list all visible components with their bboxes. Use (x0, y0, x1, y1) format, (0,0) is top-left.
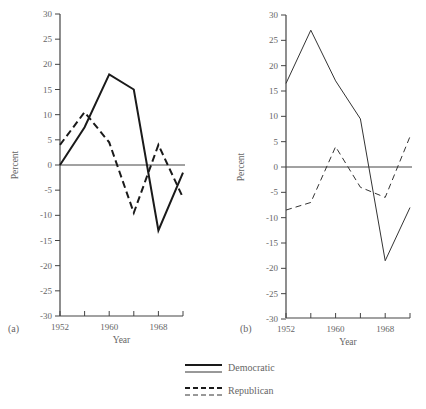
y-tick-label: -15 (266, 238, 278, 248)
x-tick-label: 1968 (149, 322, 168, 332)
chart-figure: 302520151050-5-10-15-20-25-3019521960196… (0, 0, 426, 409)
y-tick-label: 0 (48, 160, 53, 170)
y-tick-label: 15 (269, 86, 279, 96)
y-tick-label: 5 (48, 135, 53, 145)
y-tick-label: 20 (43, 59, 53, 69)
y-tick-label: 30 (43, 9, 53, 19)
y-tick-label: 25 (43, 34, 53, 44)
y-tick-label: 20 (269, 61, 279, 71)
x-tick-label: 1952 (51, 322, 69, 332)
y-tick-label: -10 (266, 213, 278, 223)
y-tick-label: 0 (274, 162, 279, 172)
series-republican-line (286, 137, 410, 210)
panel-a: 302520151050-5-10-15-20-25-3019521960196… (10, 9, 185, 345)
legend (185, 365, 222, 395)
y-tick-label: -15 (40, 236, 52, 246)
panel-b: 302520151050-5-10-15-20-25-3019521960196… (236, 10, 412, 347)
y-tick-label: 15 (43, 85, 53, 95)
y-tick-label: 10 (269, 111, 279, 121)
y-axis-label: Percent (236, 152, 246, 181)
series-republican-line (60, 112, 183, 213)
x-tick-label: 1960 (100, 322, 119, 332)
legend-democratic-label: Democratic (228, 362, 275, 373)
series-democratic-line (60, 74, 183, 230)
series-democratic-line (286, 30, 410, 261)
y-tick-label: -5 (45, 185, 53, 195)
y-tick-label: 30 (269, 10, 279, 20)
y-tick-label: 25 (269, 35, 279, 45)
y-tick-label: 5 (274, 137, 279, 147)
y-tick-label: -25 (266, 289, 278, 299)
legend-republican-label: Republican (228, 385, 274, 396)
y-tick-label: -25 (40, 286, 52, 296)
x-axis-label: Year (113, 335, 131, 345)
y-axis-label: Percent (10, 150, 20, 179)
y-tick-label: -30 (40, 311, 52, 321)
y-tick-label: -5 (271, 187, 279, 197)
x-axis-label: Year (339, 337, 357, 347)
panel-a-label: (a) (8, 318, 19, 336)
y-tick-label: -20 (40, 261, 52, 271)
y-tick-label: -10 (40, 210, 52, 220)
y-tick-label: -30 (266, 314, 278, 324)
y-tick-label: -20 (266, 263, 278, 273)
x-tick-label: 1960 (327, 324, 346, 334)
panel-b-label: (b) (240, 318, 252, 336)
y-tick-label: 10 (43, 110, 53, 120)
x-tick-label: 1968 (376, 324, 395, 334)
x-tick-label: 1952 (277, 324, 295, 334)
